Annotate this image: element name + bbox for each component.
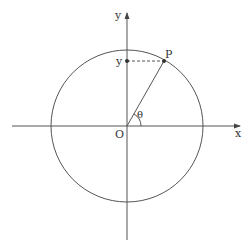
x-axis-label: x: [235, 127, 242, 140]
point-p-label: P: [165, 48, 173, 61]
diagram-canvas: y x O P y θ: [0, 0, 252, 252]
y-projection-label: y: [115, 55, 123, 68]
angle-theta-label: θ: [137, 109, 143, 120]
origin-label: O: [115, 128, 124, 141]
radius-op: [127, 61, 164, 126]
y-axis-label: y: [114, 9, 122, 22]
unit-circle-diagram: y x O P y θ: [0, 0, 252, 252]
y-projection-marker: [125, 59, 129, 63]
